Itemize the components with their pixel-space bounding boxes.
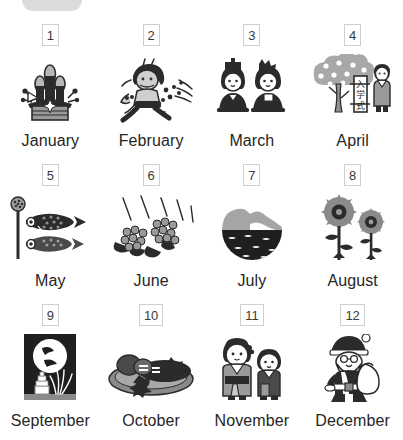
santa-claus-icon (305, 334, 401, 406)
number-badge: 9 (42, 304, 59, 326)
month-cell-july[interactable]: 7 (202, 160, 303, 300)
shichigosan-children-icon (204, 334, 300, 406)
month-label: May (35, 272, 66, 290)
number-badge: 3 (243, 24, 260, 46)
koinobori-icon (2, 194, 98, 266)
number-badge: 8 (344, 164, 361, 186)
month-label: December (315, 412, 390, 430)
setsubun-oni-icon (103, 54, 199, 126)
month-cell-october[interactable]: 10 (101, 300, 202, 440)
month-cell-february[interactable]: 2 (101, 20, 202, 160)
svg-text:学: 学 (356, 89, 365, 100)
tsukimi-moon-icon (2, 334, 98, 406)
hydrangea-rain-icon (103, 194, 199, 266)
number-badge: 4 (344, 24, 361, 46)
month-label: April (336, 132, 369, 150)
autumn-food-plate-icon (103, 334, 199, 406)
cherry-tree-entrance-ceremony-icon: 入 学 式 (305, 54, 401, 126)
month-label: November (215, 412, 290, 430)
month-label: June (134, 272, 169, 290)
month-cell-may[interactable]: 5 (0, 160, 101, 300)
month-cell-june[interactable]: 6 (101, 160, 202, 300)
month-label: March (229, 132, 274, 150)
month-cell-march[interactable]: 3 (202, 20, 303, 160)
number-badge: 7 (243, 164, 260, 186)
month-grid: 1 (0, 20, 403, 440)
month-label: February (119, 132, 184, 150)
month-label: July (237, 272, 266, 290)
hina-dolls-icon (204, 54, 300, 126)
sunflowers-icon (305, 194, 401, 266)
number-badge: 1 (42, 24, 59, 46)
number-badge: 5 (42, 164, 59, 186)
month-cell-november[interactable]: 11 (202, 300, 303, 440)
sea-beach-icon (204, 194, 300, 266)
month-cell-january[interactable]: 1 (0, 20, 101, 160)
month-cell-september[interactable]: 9 (0, 300, 101, 440)
top-pill[interactable] (22, 0, 82, 11)
month-cell-april[interactable]: 4 入 学 (302, 20, 403, 160)
number-badge: 10 (139, 304, 163, 326)
month-label: January (22, 132, 80, 150)
month-cell-december[interactable]: 12 (302, 300, 403, 440)
month-label: October (122, 412, 180, 430)
kadomatsu-icon (2, 54, 98, 126)
number-badge: 6 (143, 164, 160, 186)
number-badge: 12 (340, 304, 364, 326)
number-badge: 11 (240, 304, 264, 326)
month-label: September (11, 412, 90, 430)
month-cell-august[interactable]: 8 (302, 160, 403, 300)
svg-text:式: 式 (356, 100, 365, 111)
month-label: August (327, 272, 377, 290)
number-badge: 2 (143, 24, 160, 46)
